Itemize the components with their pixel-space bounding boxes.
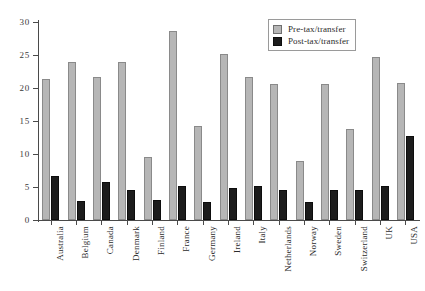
bar-post-tax xyxy=(127,190,135,220)
x-category-label: UK xyxy=(384,226,394,239)
plot-area xyxy=(38,22,418,220)
bar-pre-tax xyxy=(372,57,380,220)
x-tick xyxy=(127,221,128,225)
bar-post-tax xyxy=(381,186,389,220)
bar-post-tax xyxy=(51,176,59,220)
bar-pre-tax xyxy=(296,161,304,220)
x-category-label: Sweden xyxy=(333,226,343,256)
bar-post-tax xyxy=(203,202,211,220)
bar-pre-tax xyxy=(245,77,253,220)
bar-post-tax xyxy=(355,190,363,220)
legend-swatch-pre-tax-icon xyxy=(273,25,282,34)
x-tick xyxy=(76,221,77,225)
y-tick-label: 25 xyxy=(0,51,30,60)
x-tick xyxy=(304,221,305,225)
x-tick xyxy=(355,221,356,225)
x-tick xyxy=(51,221,52,225)
bar-post-tax xyxy=(305,202,313,220)
x-tick xyxy=(253,221,254,225)
bar-post-tax xyxy=(178,186,186,220)
y-tick-label: 30 xyxy=(0,18,30,27)
x-tick xyxy=(152,221,153,225)
x-category-label: Belgium xyxy=(80,226,90,258)
y-tick-label: 0 xyxy=(0,216,30,225)
x-category-label: Netherlands xyxy=(283,226,293,272)
x-axis-line xyxy=(38,220,420,221)
bar-post-tax xyxy=(254,186,262,220)
bar-pre-tax xyxy=(220,54,228,220)
legend-label-post-tax: Post-tax/transfer xyxy=(288,36,349,46)
y-tick-label: 15 xyxy=(0,117,30,126)
bar-pre-tax xyxy=(42,79,50,220)
bar-post-tax xyxy=(330,190,338,220)
x-tick xyxy=(279,221,280,225)
x-tick xyxy=(380,221,381,225)
x-category-label: Switzerland xyxy=(359,226,369,271)
x-tick xyxy=(177,221,178,225)
x-category-label: Italy xyxy=(257,226,267,244)
x-category-label: Ireland xyxy=(232,226,242,253)
bar-pre-tax xyxy=(68,62,76,220)
legend-swatch-post-tax-icon xyxy=(273,37,282,46)
legend-item-pre-tax: Pre-tax/transfer xyxy=(273,23,349,35)
x-tick xyxy=(228,221,229,225)
x-tick xyxy=(405,221,406,225)
bar-pre-tax xyxy=(346,129,354,220)
x-category-label: France xyxy=(181,226,191,252)
legend-label-pre-tax: Pre-tax/transfer xyxy=(288,24,346,34)
bar-pre-tax xyxy=(144,157,152,220)
x-category-label: Canada xyxy=(105,226,115,254)
bar-post-tax xyxy=(229,188,237,220)
y-tick-label: 5 xyxy=(0,183,30,192)
x-tick xyxy=(101,221,102,225)
x-category-label: Germany xyxy=(207,226,217,261)
x-category-label: Australia xyxy=(55,226,65,261)
chart-legend: Pre-tax/transfer Post-tax/transfer xyxy=(268,19,356,51)
x-category-label: Norway xyxy=(308,226,318,256)
x-tick xyxy=(329,221,330,225)
bar-post-tax xyxy=(153,200,161,220)
x-category-label: USA xyxy=(409,226,419,245)
x-category-label: Finland xyxy=(156,226,166,255)
bar-pre-tax xyxy=(194,126,202,220)
legend-item-post-tax: Post-tax/transfer xyxy=(273,35,349,47)
x-tick xyxy=(203,221,204,225)
bar-chart: 051015202530 AustraliaBelgiumCanadaDenma… xyxy=(0,0,425,291)
x-category-label: Denmark xyxy=(131,226,141,261)
bar-post-tax xyxy=(279,190,287,220)
bar-pre-tax xyxy=(270,84,278,220)
y-tick-label: 20 xyxy=(0,84,30,93)
bar-pre-tax xyxy=(321,84,329,220)
bar-post-tax xyxy=(102,182,110,220)
bar-pre-tax xyxy=(169,31,177,220)
bar-post-tax xyxy=(77,201,85,220)
bar-pre-tax xyxy=(397,83,405,220)
bar-pre-tax xyxy=(93,77,101,220)
bar-post-tax xyxy=(406,136,414,220)
y-tick-label: 10 xyxy=(0,150,30,159)
bar-pre-tax xyxy=(118,62,126,220)
